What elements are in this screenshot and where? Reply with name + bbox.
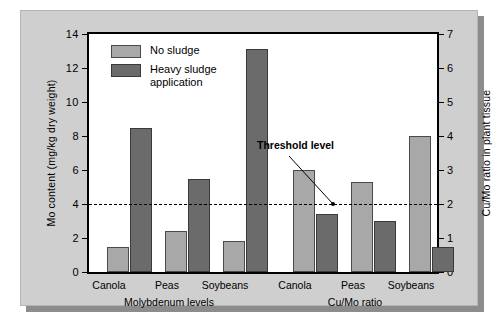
y-axis-tick-left	[82, 68, 89, 69]
plot-area: No sludge Heavy sludge application 02468…	[87, 32, 439, 274]
y-axis-tick-left	[82, 136, 89, 137]
group-label-cumo: Cu/Mo ratio	[328, 296, 382, 308]
y-axis-label-left: 10	[66, 96, 79, 108]
y-axis-label-left: 4	[72, 198, 79, 210]
y-axis-label-left: 12	[66, 62, 79, 74]
left-axis-title: Mo content (mg/kg dry weight)	[45, 79, 57, 226]
y-axis-tick-left	[82, 34, 89, 35]
y-axis-label-left: 6	[72, 164, 79, 176]
right-axis-title: Cu/Mo ratio in plant tissue	[480, 90, 492, 217]
y-axis-tick-right	[437, 204, 444, 205]
y-axis-tick-right	[437, 238, 444, 239]
x-axis-category-label: Peas	[155, 279, 179, 291]
y-axis-label-left: 2	[72, 232, 79, 244]
y-axis-label-right: 6	[447, 62, 454, 74]
y-axis-tick-left	[82, 204, 89, 205]
y-axis-label-left: 14	[66, 28, 79, 40]
x-axis-category-label: Peas	[341, 279, 365, 291]
figure-container: Mo content (mg/kg dry weight) Cu/Mo rati…	[0, 0, 494, 329]
group-label-molybdenum: Molybdenum levels	[124, 296, 214, 308]
y-axis-tick-left	[82, 170, 89, 171]
threshold-leader-line	[89, 34, 437, 272]
y-axis-label-left: 0	[72, 266, 79, 278]
x-axis-category-label: Soybeans	[388, 279, 435, 291]
y-axis-tick-right	[437, 102, 444, 103]
y-axis-tick-right	[437, 34, 444, 35]
y-axis-label-right: 5	[447, 96, 454, 108]
y-axis-label-right: 4	[447, 130, 454, 142]
y-axis-tick-left	[82, 238, 89, 239]
x-axis-category-label: Canola	[92, 279, 125, 291]
y-axis-label-left: 8	[72, 130, 79, 142]
y-axis-tick-right	[437, 272, 444, 273]
y-axis-label-right: 7	[447, 28, 454, 40]
x-axis-category-label: Soybeans	[202, 279, 249, 291]
y-axis-tick-right	[437, 170, 444, 171]
y-axis-label-right: 2	[447, 198, 454, 210]
chart-panel: Mo content (mg/kg dry weight) Cu/Mo rati…	[20, 10, 478, 306]
y-axis-label-right: 1	[447, 232, 454, 244]
y-axis-tick-left	[82, 102, 89, 103]
y-axis-tick-left	[82, 272, 89, 273]
x-axis-category-label: Canola	[278, 279, 311, 291]
y-axis-tick-right	[437, 68, 444, 69]
y-axis-tick-right	[437, 136, 444, 137]
y-axis-label-right: 3	[447, 164, 454, 176]
